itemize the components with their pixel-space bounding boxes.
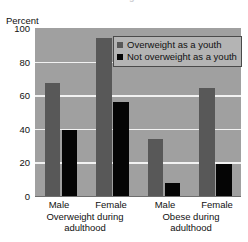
- chart-title-text: Adults Overweight or Obese: [63, 0, 184, 2]
- group-2-line-2: adulthood: [139, 222, 243, 233]
- y-tick-40: 40: [0, 125, 30, 134]
- y-tick-0: 0: [0, 192, 30, 201]
- y-tick-20: 20: [0, 158, 30, 167]
- group-label-obese-adulthood: Obese during adulthood: [139, 211, 243, 233]
- y-tick-100: 100: [0, 24, 30, 33]
- x-tick-male-overweight: Male: [33, 199, 85, 210]
- bar-not-overweight-as-a-youth-female-obese: [216, 164, 232, 196]
- legend-label-1: Overweight as a youth: [127, 40, 222, 50]
- bar-not-overweight-as-a-youth-male-overweight: [62, 130, 78, 196]
- y-tick-80: 80: [0, 58, 30, 67]
- y-tick-60: 60: [0, 91, 30, 100]
- group-2-line-1: Obese during: [139, 211, 243, 222]
- group-1-line-2: adulthood: [33, 222, 137, 233]
- bar-not-overweight-as-a-youth-female-overweight: [113, 102, 129, 196]
- x-tick-male-obese: Male: [139, 199, 191, 210]
- legend-label-2: Not overweight as a youth: [127, 52, 237, 62]
- group-1-line-1: Overweight during: [33, 211, 137, 222]
- bar-not-overweight-as-a-youth-male-obese: [165, 183, 181, 196]
- legend-swatch-gray-icon: [117, 42, 123, 48]
- chart-title-clipped: Adults Overweight or Obese: [0, 0, 248, 9]
- x-tick-female-overweight: Female: [85, 199, 137, 210]
- group-label-overweight-adulthood: Overweight during adulthood: [33, 211, 137, 233]
- chart-legend: Overweight as a youth Not overweight as …: [113, 36, 242, 67]
- x-tick-female-obese: Female: [191, 199, 243, 210]
- x-axis-line: [35, 196, 241, 197]
- bar-overweight-as-a-youth-male-obese: [148, 139, 164, 196]
- legend-item-overweight-youth: Overweight as a youth: [117, 39, 237, 51]
- bar-overweight-as-a-youth-female-obese: [199, 88, 215, 196]
- bar-overweight-as-a-youth-female-overweight: [96, 38, 112, 196]
- bar-chart-figure: Adults Overweight or Obese Percent 100 8…: [0, 0, 248, 242]
- legend-swatch-black-icon: [117, 54, 123, 60]
- legend-item-not-overweight-youth: Not overweight as a youth: [117, 51, 237, 63]
- bar-overweight-as-a-youth-male-overweight: [45, 83, 61, 196]
